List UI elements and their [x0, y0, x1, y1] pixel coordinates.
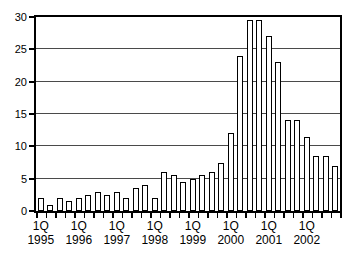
x-tick — [131, 213, 133, 218]
bar — [38, 198, 44, 211]
x-tick — [255, 213, 257, 218]
bar — [123, 198, 129, 211]
bar — [294, 120, 300, 211]
x-tick — [122, 213, 124, 218]
bar — [66, 201, 72, 211]
x-tick — [160, 213, 162, 218]
x-label-year: 2002 — [284, 233, 330, 247]
bar — [209, 172, 215, 211]
bar — [85, 195, 91, 211]
bar — [313, 156, 319, 211]
x-tick — [36, 213, 38, 218]
x-tick — [302, 213, 304, 218]
x-tick — [55, 213, 57, 218]
bar — [275, 62, 281, 211]
bar — [285, 120, 291, 211]
x-tick — [141, 213, 143, 218]
bar — [142, 185, 148, 211]
bar — [95, 192, 101, 211]
x-tick — [74, 213, 76, 218]
y-tick-label: 15 — [15, 109, 27, 119]
y-tick-label: 30 — [15, 12, 27, 22]
x-tick — [65, 213, 67, 218]
x-tick — [93, 213, 95, 218]
bar — [152, 198, 158, 211]
x-tick — [84, 213, 86, 218]
bar — [332, 166, 338, 211]
x-tick — [264, 213, 266, 218]
bar — [57, 198, 63, 211]
bar — [47, 205, 53, 211]
y-tick-label: 10 — [15, 141, 27, 151]
bar — [104, 195, 110, 211]
x-tick — [245, 213, 247, 218]
x-tick — [46, 213, 48, 218]
x-tick — [331, 213, 333, 218]
bar — [323, 156, 329, 211]
bar — [218, 163, 224, 212]
x-axis-labels: 1Q19951Q19961Q19971Q19981Q19991Q20001Q20… — [0, 219, 353, 259]
x-tick — [198, 213, 200, 218]
x-axis-group-label: 1Q2002 — [284, 219, 330, 247]
bar-chart: 051015202530 1Q19951Q19961Q19971Q19981Q1… — [0, 0, 353, 259]
bars-container — [36, 17, 340, 211]
x-tick — [188, 213, 190, 218]
x-tick — [312, 213, 314, 218]
x-tick — [321, 213, 323, 218]
bar — [247, 20, 253, 211]
x-tick — [103, 213, 105, 218]
bar — [76, 198, 82, 211]
x-tick — [340, 213, 342, 218]
y-tick-label: 20 — [15, 77, 27, 87]
bar — [266, 36, 272, 211]
x-tick — [236, 213, 238, 218]
x-tick — [293, 213, 295, 218]
bar — [199, 175, 205, 211]
x-label-quarter: 1Q — [284, 219, 330, 233]
x-tick — [169, 213, 171, 218]
x-tick — [283, 213, 285, 218]
y-tick-label: 0 — [21, 206, 27, 216]
bar — [304, 137, 310, 211]
y-tick-label: 25 — [15, 44, 27, 54]
x-tick — [274, 213, 276, 218]
bar — [190, 179, 196, 211]
x-tick — [112, 213, 114, 218]
bar — [228, 133, 234, 211]
x-tick — [150, 213, 152, 218]
bar — [180, 182, 186, 211]
bar — [161, 172, 167, 211]
bar — [133, 188, 139, 211]
bar — [114, 192, 120, 211]
x-tick — [179, 213, 181, 218]
bar — [256, 20, 262, 211]
x-tick — [226, 213, 228, 218]
x-tick — [207, 213, 209, 218]
bar — [171, 175, 177, 211]
x-tick — [217, 213, 219, 218]
bar — [237, 56, 243, 211]
y-tick-label: 5 — [21, 174, 27, 184]
